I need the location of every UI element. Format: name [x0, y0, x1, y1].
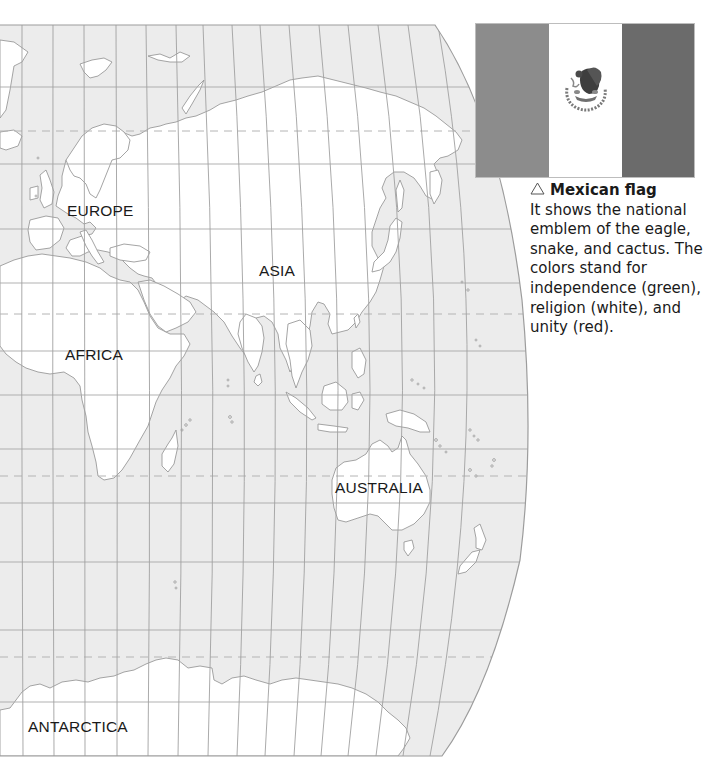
label-europe: EUROPE [67, 203, 134, 219]
flag-stripe-green [476, 24, 549, 177]
mexican-flag-image [476, 24, 694, 177]
flag-caption: Mexican flag It shows the national emble… [530, 181, 716, 338]
caption-title-text: Mexican flag [550, 181, 657, 201]
caption-title: Mexican flag [530, 181, 716, 201]
flag-stripe-white [549, 24, 622, 177]
label-africa: AFRICA [65, 347, 123, 363]
caption-body-text: It shows the national emblem of the eagl… [530, 201, 716, 338]
triangle-up-outline-icon [530, 181, 545, 201]
flag-stripe-red [622, 24, 694, 177]
label-australia: AUSTRALIA [335, 480, 423, 496]
label-asia: ASIA [259, 263, 295, 279]
label-antarctica: ANTARCTICA [28, 719, 128, 735]
ireland [30, 186, 38, 200]
eagle-emblem-icon [561, 62, 611, 114]
